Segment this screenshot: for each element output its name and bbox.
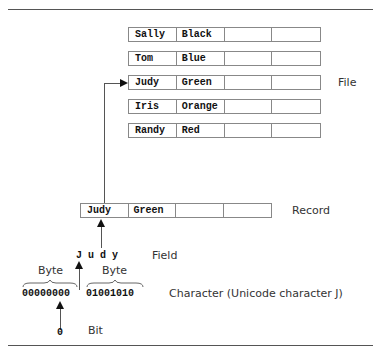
empty-cell — [272, 124, 320, 137]
last-name-cell: Black — [177, 28, 225, 41]
arrow-up-icon — [97, 219, 105, 227]
empty-cell — [225, 100, 273, 113]
record-last-name-cell: Green — [129, 204, 177, 217]
record-to-file-connector — [104, 83, 105, 203]
top-divider — [8, 9, 373, 10]
record-row: Judy Green — [80, 203, 272, 218]
field-label: Field — [152, 249, 177, 262]
last-name-cell: Orange — [177, 100, 225, 113]
empty-cell — [176, 204, 224, 217]
first-name-cell: Iris — [129, 100, 177, 113]
field-to-record-connector — [101, 226, 102, 248]
bit-label: Bit — [88, 324, 103, 337]
empty-cell — [272, 76, 320, 89]
last-name-cell: Blue — [177, 52, 225, 65]
byte-label-1: Byte — [38, 264, 63, 277]
file-record-row: Iris Orange — [128, 99, 321, 114]
arrow-up-icon — [75, 261, 83, 269]
file-label: File — [338, 76, 356, 89]
empty-cell — [272, 52, 320, 65]
empty-cell — [224, 204, 271, 217]
first-name-cell: Randy — [129, 124, 177, 137]
empty-cell — [225, 124, 273, 137]
record-first-name-cell: Judy — [81, 204, 129, 217]
first-name-cell: Judy — [129, 76, 177, 89]
empty-cell — [272, 100, 320, 113]
first-name-cell: Sally — [129, 28, 177, 41]
field-value: J u d y — [76, 250, 118, 261]
character-to-field-connector — [79, 268, 80, 290]
record-label: Record — [292, 204, 330, 217]
bottom-divider — [8, 345, 373, 346]
file-record-row: Tom Blue — [128, 51, 321, 66]
byte-brace-1 — [22, 280, 78, 288]
empty-cell — [225, 28, 273, 41]
file-record-row: Randy Red — [128, 123, 321, 138]
byte-1-bits: 00000000 — [22, 288, 70, 299]
empty-cell — [225, 76, 273, 89]
byte-2-bits: 01001010 — [86, 288, 134, 299]
arrow-right-icon — [120, 79, 128, 87]
file-record-row: Sally Black — [128, 27, 321, 42]
bit-value: 0 — [57, 327, 63, 338]
empty-cell — [272, 28, 320, 41]
file-record-row-highlighted: Judy Green — [128, 75, 321, 90]
byte-label-2: Byte — [102, 264, 127, 277]
last-name-cell: Red — [177, 124, 225, 137]
byte-brace-2 — [86, 280, 144, 288]
last-name-cell: Green — [177, 76, 225, 89]
arrow-up-icon — [56, 301, 64, 309]
character-label: Character (Unicode character J) — [169, 287, 343, 300]
first-name-cell: Tom — [129, 52, 177, 65]
empty-cell — [225, 52, 273, 65]
